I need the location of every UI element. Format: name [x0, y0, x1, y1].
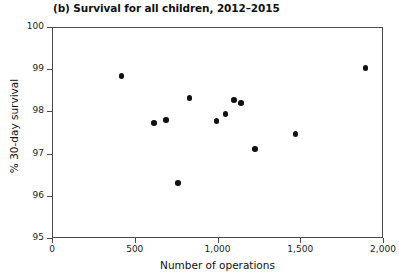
- data-point: [238, 100, 244, 106]
- data-point: [175, 180, 181, 186]
- y-tick-label: 99: [10, 64, 44, 73]
- data-point: [223, 111, 229, 117]
- y-tick-label: 100: [10, 22, 44, 31]
- data-point: [187, 95, 193, 101]
- chart-title: (b) Survival for all children, 2012–2015: [53, 2, 280, 14]
- data-point: [214, 118, 220, 124]
- y-axis-title: % 30-day survival: [8, 21, 20, 232]
- x-tick-label: 1,000: [188, 245, 248, 254]
- x-tick-mark: [135, 238, 136, 243]
- x-tick-label: 0: [22, 245, 82, 254]
- data-point: [151, 120, 157, 126]
- y-tick-label: 95: [10, 233, 44, 242]
- x-tick-label: 2,000: [353, 245, 399, 254]
- data-point: [231, 97, 237, 103]
- data-point: [163, 117, 169, 123]
- scatter-chart-figure: (b) Survival for all children, 2012–2015…: [0, 0, 399, 280]
- y-tick-label: 97: [10, 149, 44, 158]
- x-tick-mark: [218, 238, 219, 243]
- x-tick-label: 500: [105, 245, 165, 254]
- data-point: [119, 73, 125, 79]
- x-axis-title: Number of operations: [52, 259, 383, 271]
- data-point: [252, 146, 258, 152]
- y-tick-label: 96: [10, 191, 44, 200]
- data-point: [293, 131, 299, 137]
- x-tick-mark: [300, 238, 301, 243]
- data-point: [363, 65, 369, 71]
- plot-area: [52, 27, 383, 238]
- y-tick-label: 98: [10, 106, 44, 115]
- x-tick-mark: [52, 238, 53, 243]
- x-tick-mark: [383, 238, 384, 243]
- x-tick-label: 1,500: [270, 245, 330, 254]
